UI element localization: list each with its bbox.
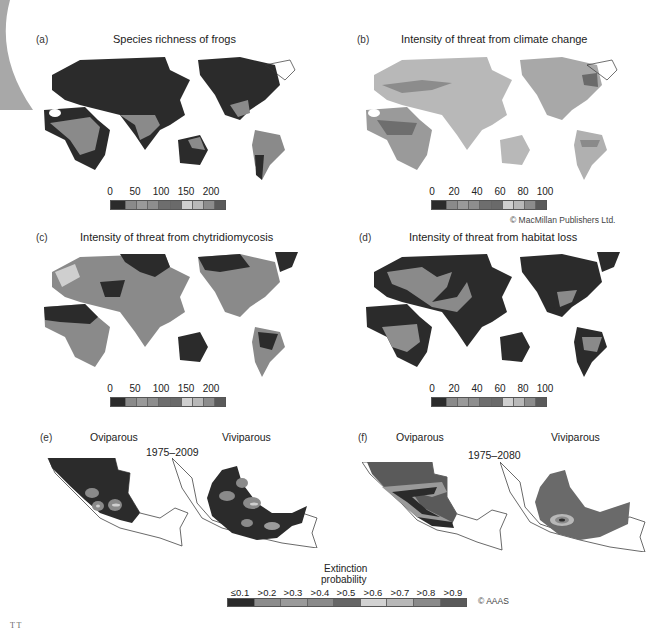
colorbar-swatch [193, 398, 204, 406]
colorbar-swatch [514, 201, 525, 209]
panel-c-title: Intensity of threat from chytridiomycosi… [80, 231, 273, 243]
legend-swatch [414, 599, 441, 606]
legend-label: >0.2 [258, 587, 277, 598]
colorbar-swatch [204, 201, 215, 209]
panel-e-oviparous-map [40, 458, 190, 548]
macmillan-credit: © MacMillan Publishers Ltd. [510, 215, 615, 225]
tick-label: 0 [107, 186, 113, 197]
colorbar-swatch [171, 201, 182, 209]
colorbar-swatch [525, 398, 536, 406]
colorbar-swatch [171, 398, 182, 406]
panel-f-oviparous-label: Oviparous [396, 431, 444, 443]
tick-label: 100 [153, 186, 170, 197]
colorbar-swatch [514, 398, 525, 406]
legend-label: >0.7 [391, 587, 410, 598]
colorbar-swatch [480, 398, 491, 406]
colorbar-swatch [215, 201, 225, 209]
panel-a-title: Species richness of frogs [113, 33, 236, 45]
panel-a-letter: (a) [36, 34, 48, 45]
panel-e-oviparous-label: Oviparous [90, 431, 138, 443]
legend-swatch [441, 599, 467, 606]
tick-label: 100 [537, 186, 554, 197]
colorbar-swatch [137, 201, 148, 209]
legend-swatch [281, 599, 308, 606]
legend-label: >0.4 [311, 587, 330, 598]
panel-b-letter: (b) [357, 34, 369, 45]
colorbar-swatch [137, 398, 148, 406]
panel-d-letter: (d) [359, 232, 371, 243]
colorbar-swatch [469, 201, 480, 209]
corner-mark: T T [10, 621, 21, 629]
panel-a-world-map [40, 55, 300, 180]
tick-label: 40 [471, 186, 482, 197]
panel-f-oviparous-map [362, 462, 512, 552]
legend-label: >0.5 [337, 587, 356, 598]
legend-label: >0.6 [364, 587, 383, 598]
panel-b-colorbar [431, 200, 547, 210]
panel-b-title: Intensity of threat from climate change [401, 33, 587, 45]
extinction-legend-title-line2: probability [321, 574, 367, 585]
legend-swatch [334, 599, 361, 606]
tick-label: 0 [429, 186, 435, 197]
colorbar-swatch [182, 398, 193, 406]
tick-label: 80 [517, 186, 528, 197]
colorbar-swatch [215, 398, 225, 406]
colorbar-swatch [193, 201, 204, 209]
legend-swatch [387, 599, 414, 606]
extinction-legend-colorbar [227, 598, 467, 607]
colorbar-swatch [492, 398, 503, 406]
panel-c-world-map [40, 252, 300, 377]
colorbar-swatch [148, 398, 159, 406]
tick-label: 100 [537, 383, 554, 394]
colorbar-swatch [536, 201, 546, 209]
panel-d-colorbar [431, 397, 547, 407]
tick-label: 50 [129, 186, 140, 197]
tick-label: 150 [178, 186, 195, 197]
legend-swatch [255, 599, 282, 606]
colorbar-swatch [480, 201, 491, 209]
aaas-credit: © AAAS [478, 596, 509, 606]
tick-label: 60 [494, 383, 505, 394]
legend-swatch [228, 599, 255, 606]
colorbar-swatch [126, 201, 137, 209]
colorbar-swatch [159, 201, 170, 209]
tick-label: 0 [107, 383, 113, 394]
panel-e-letter: (e) [40, 432, 52, 443]
colorbar-swatch [447, 201, 458, 209]
legend-swatch [361, 599, 388, 606]
extinction-legend-title-line1: Extinction [324, 563, 367, 574]
tick-label: 200 [203, 383, 220, 394]
colorbar-swatch [111, 398, 126, 406]
panel-e-period: 1975–2009 [146, 446, 199, 458]
panel-f-letter: (f) [358, 432, 367, 443]
tick-label: 0 [429, 383, 435, 394]
colorbar-swatch [182, 201, 193, 209]
colorbar-swatch [126, 398, 137, 406]
colorbar-swatch [432, 201, 447, 209]
colorbar-swatch [111, 201, 126, 209]
colorbar-swatch [447, 398, 458, 406]
panel-f-viviparous-map [500, 462, 650, 552]
panel-c-letter: (c) [36, 232, 48, 243]
tick-label: 50 [129, 383, 140, 394]
tick-label: 40 [471, 383, 482, 394]
legend-label: >0.3 [284, 587, 303, 598]
tick-label: 200 [203, 186, 220, 197]
tick-label: 60 [494, 186, 505, 197]
colorbar-swatch [503, 201, 514, 209]
colorbar-swatch [204, 398, 215, 406]
legend-label: ≤0.1 [231, 587, 249, 598]
panel-c-colorbar [110, 397, 226, 407]
colorbar-swatch [458, 201, 469, 209]
panel-f-period: 1975–2080 [468, 449, 521, 461]
panel-d-title: Intensity of threat from habitat loss [409, 231, 577, 243]
tick-label: 20 [448, 383, 459, 394]
panel-a-colorbar [110, 200, 226, 210]
colorbar-swatch [503, 398, 514, 406]
legend-label: >0.8 [417, 587, 436, 598]
tick-label: 20 [448, 186, 459, 197]
tick-label: 80 [517, 383, 528, 394]
panel-d-world-map [362, 252, 622, 377]
colorbar-swatch [159, 398, 170, 406]
decorative-crescent-shape [0, 0, 40, 115]
